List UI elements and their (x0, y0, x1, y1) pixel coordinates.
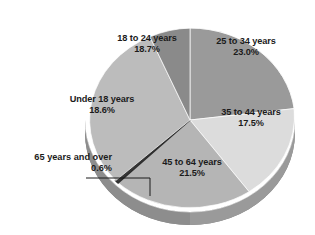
slice-label-name: Under 18 years (53, 94, 151, 105)
slice-label-percent: 18.7% (101, 44, 193, 55)
slice-label-35-to-44: 35 to 44 years 17.5% (205, 107, 297, 129)
slice-label-name: 35 to 44 years (205, 107, 297, 118)
slice-label-percent: 17.5% (205, 118, 297, 129)
slice-label-percent: 23.0% (200, 47, 292, 58)
slice-label-name: 45 to 64 years (146, 157, 238, 168)
slice-callout-label-65-and-over: 65 years and over 0.6% (2, 152, 112, 174)
slice-label-percent: 0.6% (2, 163, 112, 174)
slice-label-under-18: Under 18 years 18.6% (53, 94, 151, 116)
slice-label-percent: 21.5% (146, 168, 238, 179)
pie-chart: 18 to 24 years 18.7% 25 to 34 years 23.0… (0, 0, 315, 235)
slice-label-25-to-34: 25 to 34 years 23.0% (200, 36, 292, 58)
slice-label-45-to-64: 45 to 64 years 21.5% (146, 157, 238, 179)
slice-label-percent: 18.6% (53, 105, 151, 116)
slice-label-name: 25 to 34 years (200, 36, 292, 47)
slice-label-18-to-24: 18 to 24 years 18.7% (101, 33, 193, 55)
slice-label-name: 65 years and over (2, 152, 112, 163)
slice-label-name: 18 to 24 years (101, 33, 193, 44)
